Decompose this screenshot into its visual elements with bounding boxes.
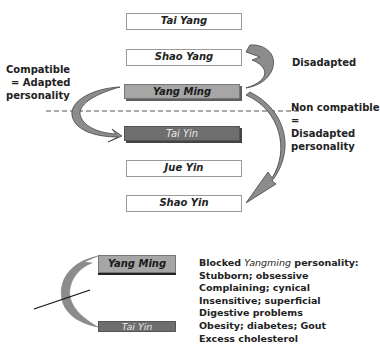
list-item: Complaining; cynical	[199, 282, 359, 295]
blocked-curve-arrow-icon	[61, 256, 98, 327]
non-compatible-annotation: Non compatible = Disadapted personality	[291, 101, 380, 153]
list-title-suffix: personality:	[291, 257, 359, 268]
level-shao-yang: Shao Yang	[126, 49, 242, 66]
right-down-arrow-icon	[246, 92, 285, 203]
list-item: Insensitive; superficial	[199, 295, 359, 308]
list-item: Excess cholesterol	[199, 333, 359, 346]
left-curved-arrow-icon	[72, 87, 122, 142]
bottom-tai-yin-box: Tai Yin	[98, 321, 176, 332]
level-yang-ming: Yang Ming	[124, 84, 240, 99]
disadapted-annotation: Disadapted	[292, 56, 356, 69]
compatible-line-3: personality	[6, 89, 70, 102]
list-item: Obesity; diabetes; Gout	[199, 320, 359, 333]
non-compatible-line-1: Non compatible =	[291, 101, 380, 127]
list-item: Stubborn; obsessive	[199, 270, 359, 283]
non-compatible-line-3: personality	[291, 140, 380, 153]
compatible-annotation: Compatible = Adapted personality	[6, 63, 70, 102]
right-up-arrow-icon	[246, 45, 274, 88]
blocked-yangming-list: Blocked Yangming personality: Stubborn; …	[199, 257, 359, 345]
level-tai-yang: Tai Yang	[126, 13, 242, 30]
level-jue-yin: Jue Yin	[126, 160, 242, 177]
bottom-yang-ming-box: Yang Ming	[98, 255, 176, 273]
level-tai-yin: Tai Yin	[124, 126, 240, 141]
list-item: Digestive problems	[199, 307, 359, 320]
compatible-line-2: = Adapted	[6, 76, 70, 89]
list-title-prefix: Blocked	[199, 257, 244, 268]
non-compatible-line-2: Disadapted	[291, 127, 380, 140]
list-title: Blocked Yangming personality:	[199, 257, 359, 270]
list-title-italic: Yangming	[244, 257, 291, 268]
level-shao-yin: Shao Yin	[126, 195, 242, 212]
compatible-line-1: Compatible	[6, 63, 70, 76]
